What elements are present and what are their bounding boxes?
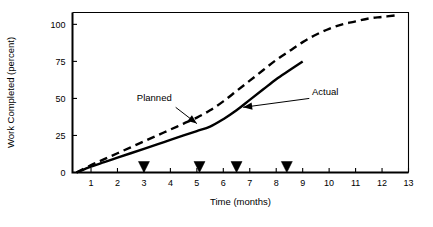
y-axis-title: Work Completed (percent): [5, 37, 16, 148]
x-tick-label: 8: [274, 178, 279, 188]
x-tick-label: 11: [351, 178, 360, 188]
x-tick-label: 12: [377, 178, 387, 188]
x-tick-label: 13: [403, 178, 413, 188]
chart-container: 12345678910111213 0255075100 Planned Act…: [0, 0, 433, 227]
x-axis-title: Time (months): [210, 196, 271, 207]
series-label-planned: Planned: [137, 92, 172, 103]
x-tick-label: 3: [141, 178, 146, 188]
x-tick-label: 2: [115, 178, 120, 188]
y-tick-label: 75: [55, 57, 65, 67]
series-label-actual: Actual: [312, 86, 338, 97]
x-tick-label: 10: [324, 178, 334, 188]
y-tick-label: 0: [60, 168, 65, 178]
x-tick-label: 7: [247, 178, 252, 188]
x-tick-label: 4: [168, 178, 173, 188]
x-tick-label: 6: [221, 178, 226, 188]
x-tick-label: 5: [194, 178, 199, 188]
x-tick-label: 9: [300, 178, 305, 188]
y-tick-label: 50: [55, 94, 65, 104]
chart-background: [0, 0, 433, 227]
y-tick-label: 100: [50, 20, 65, 30]
work-completed-chart: 12345678910111213 0255075100 Planned Act…: [0, 0, 433, 227]
y-tick-label: 25: [55, 131, 65, 141]
x-tick-label: 1: [89, 178, 94, 188]
